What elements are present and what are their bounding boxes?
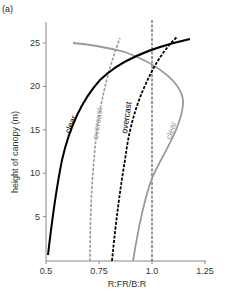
curve-label-clear-black: clear xyxy=(63,114,79,135)
y-tick-label: 5 xyxy=(35,212,40,222)
curve-label-overcast-gray: overcast xyxy=(90,106,104,140)
x-tick-label: 1.25 xyxy=(196,266,214,276)
panel-label: (a) xyxy=(2,4,13,14)
chart: (a) 5 10 15 20 25 height of canopy (m) 0… xyxy=(0,0,226,301)
x-tick-label: 1.0 xyxy=(146,266,159,276)
x-tick-label: 0.5 xyxy=(40,266,53,276)
curve-label-overcast-black: overcast xyxy=(119,100,133,134)
y-tick-label: 10 xyxy=(30,168,40,178)
x-tick-label: 0.75 xyxy=(90,266,108,276)
series-clear-gray xyxy=(73,43,183,261)
y-tick-label: 15 xyxy=(30,125,40,135)
y-tick-label: 25 xyxy=(30,38,40,48)
x-axis-label: R:FR/B:R xyxy=(108,279,147,289)
y-axis-label: height of canopy (m) xyxy=(10,111,20,193)
y-tick-label: 20 xyxy=(30,81,40,91)
